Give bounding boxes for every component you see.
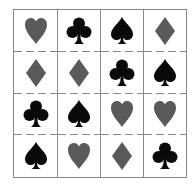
grid-cell <box>100 52 143 94</box>
grid-cell <box>14 94 57 136</box>
heart-icon <box>23 16 49 46</box>
grid-cell <box>143 135 186 177</box>
spade-icon <box>66 99 92 129</box>
grid-cell <box>100 10 143 52</box>
club-icon <box>66 16 92 46</box>
grid-cell <box>143 10 186 52</box>
heart-icon <box>66 141 92 171</box>
grid-cell <box>143 94 186 136</box>
spade-icon <box>152 58 178 88</box>
grid-cell <box>57 135 100 177</box>
diamond-icon <box>152 16 178 46</box>
diamond-icon <box>66 58 92 88</box>
suit-grid <box>13 9 187 178</box>
grid-cell <box>57 10 100 52</box>
diamond-icon <box>23 58 49 88</box>
heart-icon <box>109 99 135 129</box>
grid-cell <box>14 135 57 177</box>
club-icon <box>152 141 178 171</box>
grid-cell <box>57 52 100 94</box>
grid-cell <box>14 52 57 94</box>
grid-cell <box>100 135 143 177</box>
grid-cell <box>14 10 57 52</box>
grid-cell <box>143 52 186 94</box>
diamond-icon <box>109 141 135 171</box>
heart-icon <box>152 99 178 129</box>
club-icon <box>23 99 49 129</box>
club-icon <box>109 58 135 88</box>
spade-icon <box>109 16 135 46</box>
grid-cell <box>100 94 143 136</box>
grid-cell <box>57 94 100 136</box>
spade-icon <box>23 141 49 171</box>
